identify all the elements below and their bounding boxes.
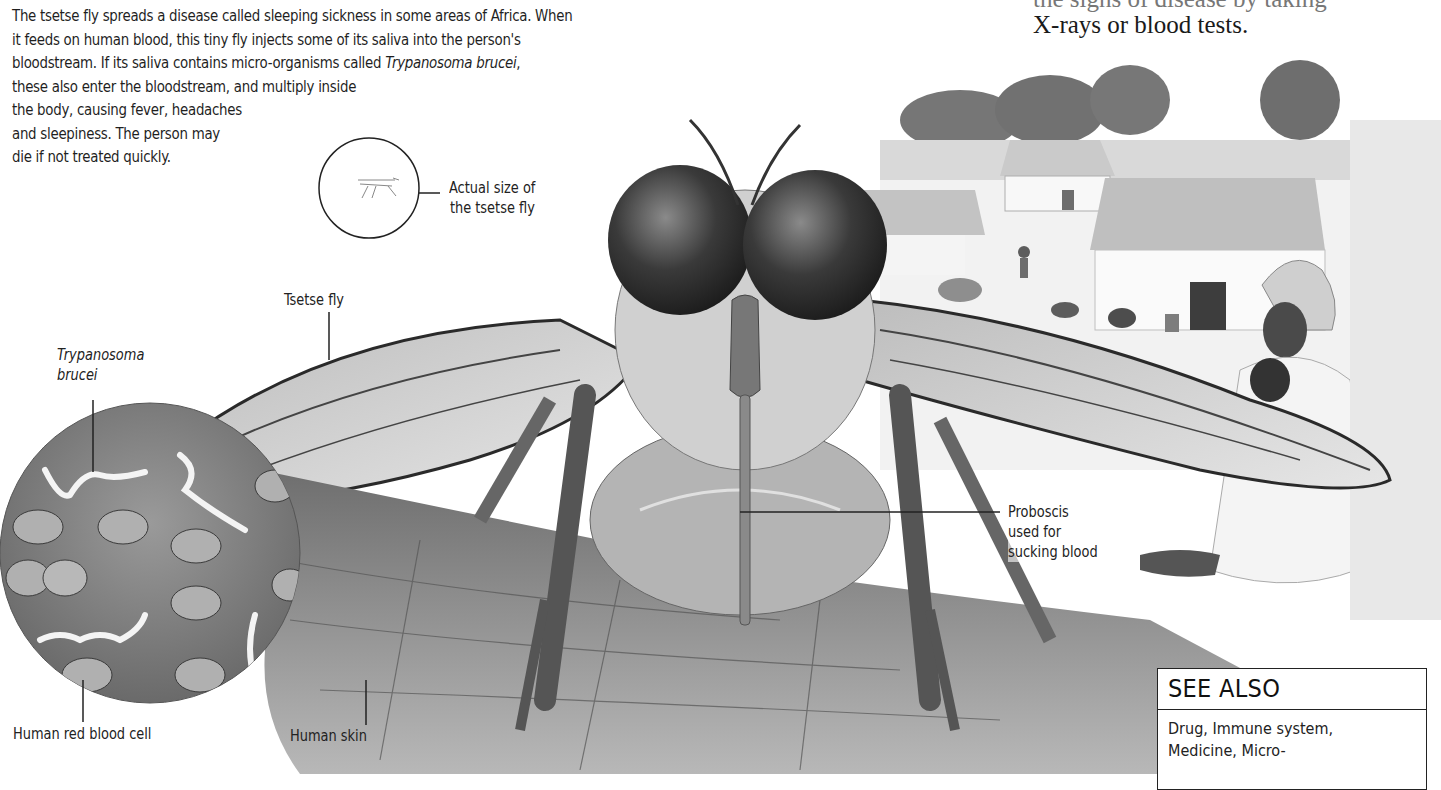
actual-size-label-line-1: Actual size of: [449, 178, 535, 198]
trypanosoma-label: Trypanosoma brucei: [57, 345, 144, 385]
actual-size-label: Actual size of the tsetse fly: [449, 178, 535, 218]
red-blood-cell-label: Human red blood cell: [13, 724, 151, 744]
see-also-line-2[interactable]: Medicine, Micro-: [1168, 740, 1416, 762]
see-also-box: SEE ALSO Drug, Immune system, Medicine, …: [1157, 668, 1427, 790]
see-also-links: Drug, Immune system, Medicine, Micro-: [1158, 710, 1426, 770]
proboscis-label: Proboscis used for sucking blood: [1008, 502, 1098, 562]
proboscis-label-line-2: used for: [1008, 522, 1098, 542]
actual-size-label-line-2: the tsetse fly: [450, 198, 535, 218]
see-also-heading: SEE ALSO: [1158, 669, 1426, 710]
proboscis-label-line-3: sucking blood: [1008, 542, 1098, 562]
human-skin-label: Human skin: [290, 726, 367, 746]
actual-size-circle: [319, 138, 440, 238]
trypanosoma-label-line-2: brucei: [57, 365, 144, 385]
trypanosoma-label-line-1: Trypanosoma: [57, 345, 144, 365]
proboscis-label-line-1: Proboscis: [1008, 502, 1098, 522]
see-also-line-1[interactable]: Drug, Immune system,: [1168, 718, 1416, 740]
tsetse-fly-label: Tsetse fly: [284, 290, 344, 310]
